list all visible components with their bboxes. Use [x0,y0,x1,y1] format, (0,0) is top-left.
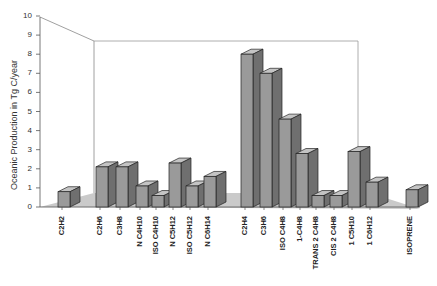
y-tick-label: 8 [18,49,32,58]
x-tick-label: C3H8 [115,216,124,235]
x-tick-label: C2H2 [57,216,66,235]
y-tick-label: 9 [18,30,32,39]
x-tick-label: C3H6 [259,216,268,235]
y-tick-label: 3 [18,145,32,154]
y-tick-label: 10 [18,11,32,20]
y-tick-label: 5 [18,107,32,116]
y-tick-label: 0 [18,202,32,211]
x-tick-label: ISOPRENE [405,216,414,255]
x-tick-label: 1-C4H8 [295,216,304,242]
y-tick-label: 1 [18,183,32,192]
x-tick-label: C2H6 [95,216,104,235]
x-tick-label: C2H4 [240,216,249,235]
x-tick-label: CIS 2 C4H8 [329,216,338,256]
x-tick-label: N C6H14 [203,216,212,247]
x-tick-label: N C5H12 [168,216,177,247]
x-tick-label: ISO C4H8 [278,216,287,250]
x-tick-label: 1 C5H10 [347,216,356,246]
x-tick-label: ISO C4H10 [151,216,160,254]
x-tick-label: ISO C5H12 [185,216,194,254]
x-tick-label: 1 C6H12 [365,216,374,246]
y-tick-label: 2 [18,164,32,173]
y-tick-label: 4 [18,126,32,135]
x-tick-label: N C4H10 [135,216,144,247]
bar-chart-3d: Oceanic Production in Tg C/year 01234567… [0,0,437,286]
y-tick-label: 6 [18,87,32,96]
x-tick-label: TRANS 2 C4H8 [311,216,320,269]
y-tick-label: 7 [18,68,32,77]
